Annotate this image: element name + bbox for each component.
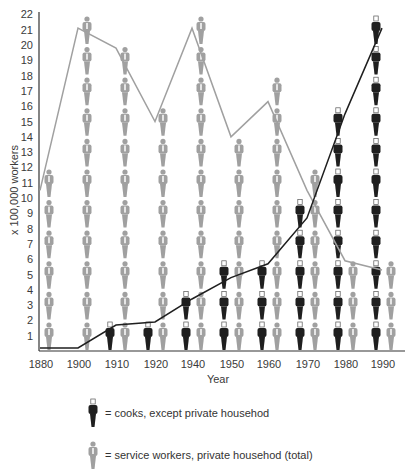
svg-text:8: 8: [27, 223, 33, 235]
svg-text:1880: 1880: [29, 358, 53, 370]
y-axis-label: x 100,000 workers: [8, 145, 20, 235]
svg-text:14: 14: [21, 131, 33, 143]
svg-text:12: 12: [21, 161, 33, 173]
svg-text:7: 7: [27, 238, 33, 250]
svg-text:18: 18: [21, 70, 33, 82]
svg-text:16: 16: [21, 100, 33, 112]
legend: = cooks, except private househod = servi…: [85, 392, 313, 473]
legend-label-cooks: = cooks, except private househod: [105, 407, 269, 419]
svg-text:1940: 1940: [181, 358, 205, 370]
x-axis: 1880190019101920194019501960197019801990: [29, 351, 405, 370]
svg-text:10: 10: [21, 192, 33, 204]
svg-text:1920: 1920: [144, 358, 168, 370]
dark-person-icon: [85, 397, 101, 429]
svg-text:1980: 1980: [334, 358, 358, 370]
legend-item-cooks: = cooks, except private househod: [85, 392, 313, 434]
svg-text:22: 22: [21, 8, 33, 20]
svg-text:9: 9: [27, 207, 33, 219]
svg-text:3: 3: [27, 299, 33, 311]
svg-text:1970: 1970: [296, 358, 320, 370]
svg-text:1960: 1960: [257, 358, 281, 370]
svg-text:11: 11: [22, 177, 33, 189]
svg-text:5: 5: [27, 269, 33, 281]
y-axis: 12345678910111213141516171819202122: [21, 8, 39, 351]
pictogram-chart: 12345678910111213141516171819202122 1880…: [0, 0, 413, 400]
svg-text:6: 6: [27, 253, 33, 265]
svg-text:1910: 1910: [105, 358, 129, 370]
legend-label-service-workers: = service workers, private househod (tot…: [105, 449, 313, 461]
svg-text:17: 17: [21, 85, 33, 97]
svg-text:4: 4: [27, 284, 33, 296]
svg-text:1950: 1950: [220, 358, 244, 370]
svg-text:19: 19: [21, 54, 33, 66]
svg-text:2: 2: [27, 314, 33, 326]
x-axis-label: Year: [207, 373, 230, 385]
grey-person-icon: [85, 439, 101, 471]
legend-item-service-workers: = service workers, private househod (tot…: [85, 434, 313, 473]
svg-text:13: 13: [21, 146, 33, 158]
svg-text:15: 15: [21, 116, 33, 128]
svg-text:1: 1: [27, 330, 33, 342]
svg-text:1990: 1990: [371, 358, 395, 370]
svg-text:21: 21: [21, 24, 33, 36]
svg-text:20: 20: [21, 39, 33, 51]
svg-text:1900: 1900: [67, 358, 91, 370]
